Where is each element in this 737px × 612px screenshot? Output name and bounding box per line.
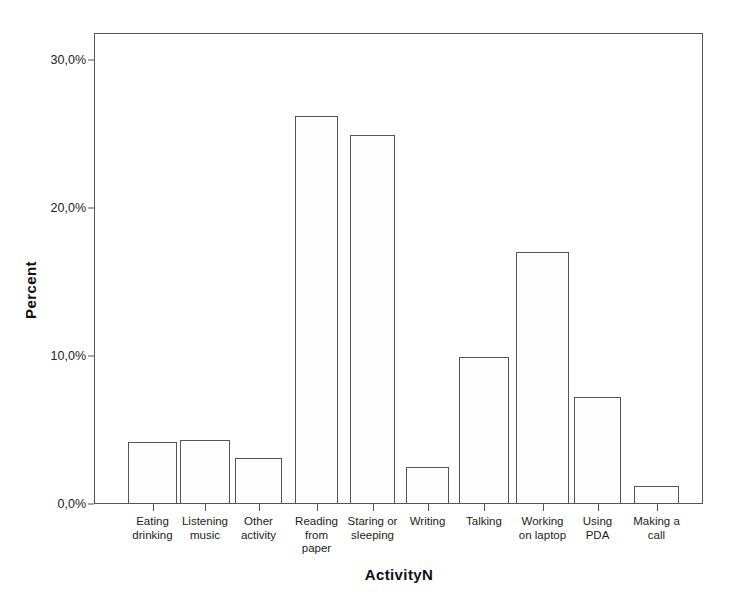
bar xyxy=(180,440,230,504)
y-axis-tick-mark xyxy=(88,356,94,357)
y-axis-tick-label: 10,0% xyxy=(16,349,86,363)
bar xyxy=(459,357,509,504)
y-axis-tick-label: 0,0% xyxy=(16,497,86,511)
y-axis-tick-mark xyxy=(88,60,94,61)
x-axis-category-label: Making a call xyxy=(617,515,697,542)
x-axis-tick-mark xyxy=(205,504,206,511)
bar xyxy=(574,397,621,504)
x-axis-tick-mark xyxy=(484,504,485,511)
y-axis-tick-label: 20,0% xyxy=(16,201,86,215)
bar xyxy=(295,116,338,504)
bar xyxy=(128,442,177,504)
bar xyxy=(406,467,449,504)
bar xyxy=(634,486,679,504)
y-axis-title-text: Percent xyxy=(22,261,39,319)
x-axis-tick-mark xyxy=(259,504,260,511)
bar xyxy=(516,252,569,504)
bar-chart: Percent 0,0%10,0%20,0%30,0% Eating drink… xyxy=(0,0,737,612)
x-axis-tick-mark xyxy=(153,504,154,511)
y-axis-title: Percent xyxy=(18,230,42,350)
x-axis-title: ActivityN xyxy=(94,566,704,583)
x-axis-tick-mark xyxy=(317,504,318,511)
y-axis-tick-mark xyxy=(88,208,94,209)
bar xyxy=(235,458,282,504)
x-axis-tick-mark xyxy=(598,504,599,511)
bar xyxy=(350,135,395,504)
x-axis-tick-mark xyxy=(657,504,658,511)
y-axis-tick-mark xyxy=(88,504,94,505)
y-axis-tick-label: 30,0% xyxy=(16,53,86,67)
x-axis-tick-mark xyxy=(428,504,429,511)
x-axis-tick-mark xyxy=(543,504,544,511)
x-axis-tick-mark xyxy=(373,504,374,511)
